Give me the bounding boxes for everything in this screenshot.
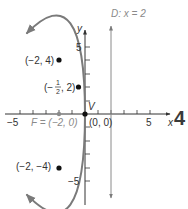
point-neg2-4 — [56, 57, 61, 62]
directrix-label: D: x = 2 — [111, 8, 146, 19]
point-label-neghalf-2: (− 1 2 , 2) — [44, 79, 75, 95]
point-neg2-neg4 — [56, 165, 61, 170]
point-neghalf-2 — [76, 84, 81, 89]
x-tick-label-pos: 5 — [146, 117, 152, 128]
focus-point — [57, 112, 61, 116]
x-axis-label: x — [167, 117, 174, 128]
focus-label: F = (−2, 0) — [31, 117, 78, 128]
pt2-denominator: 2 — [56, 88, 60, 95]
y-tick-label-pos: 5 — [76, 42, 82, 53]
problem-number: 4 — [174, 107, 186, 129]
vertex-letter-label: V — [88, 101, 96, 112]
pt2-numerator: 1 — [56, 79, 60, 86]
pt2-close: , 2) — [61, 82, 75, 93]
parabola-graph: y 5 −5 −5 5 x D: x = 2 V (0, 0) F = (−2,… — [0, 0, 188, 209]
vertex-coords-label: (0, 0) — [89, 117, 112, 128]
point-label-neg2-4: (−2, 4) — [25, 55, 54, 66]
point-label-neg2-neg4: (−2, −4) — [16, 161, 51, 172]
vertex-point — [82, 111, 87, 116]
x-tick-label-neg: −5 — [7, 117, 19, 128]
y-axis-label: y — [76, 23, 83, 34]
pt2-open: (− — [44, 82, 53, 93]
y-tick-label-neg: −5 — [68, 176, 80, 187]
